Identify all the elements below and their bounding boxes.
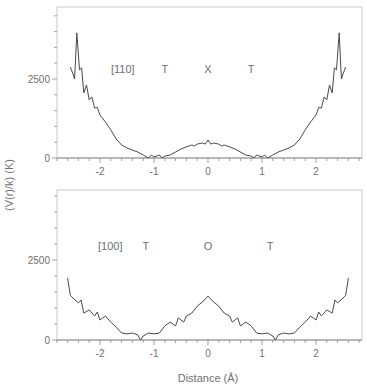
- top-y-tick-labels: 02500: [28, 74, 51, 164]
- x-tick-label: -2: [96, 166, 105, 177]
- site-label: T: [248, 63, 255, 75]
- bottom-y-ticks: [52, 196, 57, 340]
- figure: -2-1012 02500 [110] TXT -2-1012 02500 [1…: [0, 0, 367, 390]
- top-panel-frame: [57, 7, 362, 158]
- x-tick-label: 0: [205, 348, 211, 359]
- x-tick-label: 0: [205, 166, 211, 177]
- y-tick-label: 2500: [28, 255, 51, 266]
- top-site-annotations: TXT: [161, 63, 254, 75]
- y-tick-label: 0: [44, 335, 50, 346]
- bottom-direction-label: [100]: [98, 240, 122, 252]
- top-direction-label: [110]: [111, 63, 135, 75]
- x-tick-label: 2: [313, 166, 319, 177]
- top-panel: -2-1012 02500 [110] TXT: [28, 7, 362, 177]
- site-label: O: [204, 240, 213, 252]
- bottom-panel: -2-1012 02500 [100] TOT: [28, 190, 362, 359]
- x-axis-label: Distance (Å): [178, 372, 239, 384]
- site-label: T: [267, 240, 274, 252]
- y-tick-label: 0: [44, 153, 50, 164]
- x-tick-label: -1: [150, 348, 159, 359]
- bottom-site-annotations: TOT: [143, 240, 274, 252]
- top-potential-curve: [70, 33, 345, 158]
- site-label: X: [204, 63, 212, 75]
- top-y-ticks: [52, 16, 57, 158]
- y-tick-label: 2500: [28, 74, 51, 85]
- y-axis-label: (V(r)/k) (K): [3, 159, 15, 211]
- bottom-potential-curve: [68, 278, 349, 340]
- top-x-tick-labels: -2-1012: [96, 166, 320, 177]
- top-x-ticks: [57, 158, 359, 163]
- bottom-x-ticks: [57, 340, 359, 345]
- x-tick-label: -2: [96, 348, 105, 359]
- bottom-y-tick-labels: 02500: [28, 255, 51, 346]
- site-label: T: [161, 63, 168, 75]
- x-tick-label: -1: [150, 166, 159, 177]
- x-tick-label: 2: [313, 348, 319, 359]
- bottom-x-tick-labels: -2-1012: [96, 348, 320, 359]
- x-tick-label: 1: [259, 348, 265, 359]
- x-tick-label: 1: [259, 166, 265, 177]
- site-label: T: [143, 240, 150, 252]
